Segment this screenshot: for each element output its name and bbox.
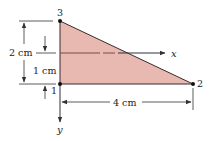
x-axis-label: x bbox=[171, 48, 177, 59]
node-2 bbox=[191, 82, 195, 86]
node-3-label: 3 bbox=[57, 7, 63, 18]
node-3 bbox=[58, 19, 62, 23]
node-2-label: 2 bbox=[197, 78, 203, 89]
dimension-1cm-label: 1 cm bbox=[33, 65, 56, 76]
triangle-element-diagram: x y 3 1 2 2 cm 1 cm 4 cm bbox=[0, 0, 212, 141]
node-1 bbox=[58, 82, 62, 86]
dimension-2cm-label: 2 cm bbox=[9, 47, 32, 58]
y-axis-label: y bbox=[56, 124, 63, 135]
node-1-label: 1 bbox=[51, 85, 57, 96]
dimension-4cm-label: 4 cm bbox=[113, 97, 136, 108]
